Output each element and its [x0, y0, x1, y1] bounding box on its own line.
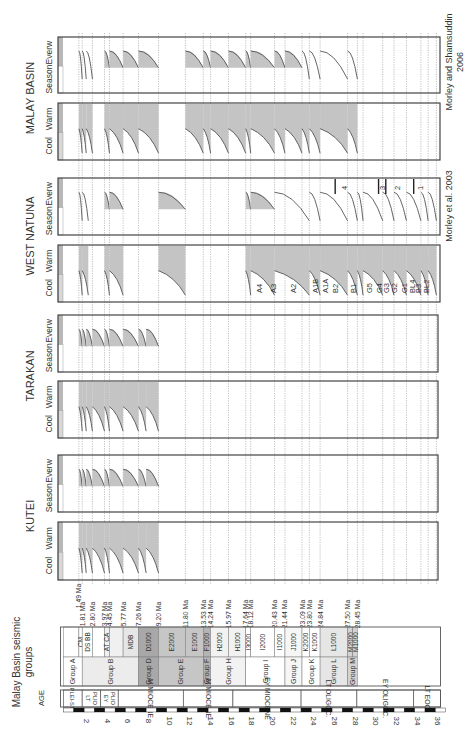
age-label: EY	[103, 695, 109, 703]
scale-bar-segment	[74, 708, 84, 712]
region-title-west-natuna: WEST NATUNA	[24, 196, 36, 276]
label-season: Season	[44, 343, 54, 372]
axis-tick-6: 6	[123, 719, 132, 724]
subunit-label: MDB	[127, 635, 134, 649]
warm-shade	[211, 104, 229, 153]
boundary-age-label: 15.97 Ma	[225, 600, 232, 629]
scale-bar-segment	[404, 708, 414, 712]
scale-bar-segment	[353, 708, 363, 712]
legend-strip-upper	[58, 103, 63, 133]
climate-curve	[383, 192, 394, 221]
legend-strip-lower	[58, 275, 63, 302]
unit-label-a1a: A1A	[321, 279, 330, 293]
everw-shade	[185, 51, 203, 68]
scale-bar-segment	[229, 708, 239, 712]
label-season: Season	[44, 206, 54, 235]
scale-bar-segment	[270, 708, 280, 712]
boundary-age-label: 18.12 Ma	[247, 600, 254, 629]
region-title-malay-basin: MALAY BASIN	[24, 62, 36, 134]
zone-label-3: 3	[378, 186, 387, 190]
subunit-label: E1000	[191, 632, 198, 651]
everw-shade	[109, 469, 123, 486]
scale-bar-segment	[125, 708, 135, 712]
climate-curve	[357, 192, 363, 221]
climate-curve	[302, 51, 309, 79]
group-label: Group M	[349, 658, 357, 685]
unit-label-b2: B2	[331, 284, 340, 293]
climate-curve	[82, 51, 86, 79]
diagram-canvas: SeasonEverwCoolWarmSeasonEverwCoolWarmSe…	[0, 0, 471, 753]
region-title-kutei: KUTEI	[24, 500, 36, 532]
axis-tick-20: 20	[268, 717, 277, 726]
label-warm: Warm	[44, 386, 54, 408]
age-label: M MIOCENE	[205, 679, 212, 719]
climate-curve	[86, 51, 92, 79]
climate-curve	[320, 51, 347, 79]
climate-curve	[363, 192, 383, 221]
everw-shade	[138, 329, 146, 346]
boundary-age-label: 11.80 Ma	[182, 600, 189, 628]
climate-curve	[348, 51, 358, 79]
axis-tick-16: 16	[227, 717, 236, 726]
subunit-label: L1000	[330, 633, 337, 651]
axis-tick-18: 18	[247, 717, 256, 726]
scale-bar-segment	[425, 708, 435, 712]
warm-shade	[159, 246, 186, 295]
everw-shade	[92, 329, 104, 346]
panel-tarakan-season-everw	[58, 315, 438, 372]
everw-shade	[146, 469, 158, 486]
climate-curve	[320, 192, 347, 221]
panel-kutei-cool-warm	[58, 522, 438, 580]
everw-shade	[146, 329, 158, 346]
everw-shade	[138, 51, 158, 68]
scale-bar-segment	[373, 708, 383, 712]
subunit-label: D1000	[145, 632, 152, 652]
scale-bar-segment	[208, 708, 218, 712]
boundary-age-label: 21.44 Ma	[281, 600, 288, 629]
age-label: LT	[85, 695, 91, 702]
scale-bar-segment	[394, 708, 404, 712]
scale-bar-segment	[384, 708, 394, 712]
panel-kutei-season-everw	[58, 455, 438, 512]
subunit-cell	[109, 627, 123, 657]
boundary-age-label: 2.80 Ma	[89, 602, 96, 627]
label-warm: Warm	[44, 527, 54, 549]
scale-bar-segment	[291, 708, 301, 712]
scale-bar-segment	[115, 708, 125, 712]
subunit-label: F1000	[203, 632, 210, 651]
label-cool: Cool	[44, 279, 54, 297]
boundary-age-label: 27.50 Ma	[344, 600, 351, 629]
zone-label-1: 1	[416, 186, 425, 190]
boundary-age-label: 14.24 Ma	[207, 600, 214, 629]
group-label: Group E	[177, 658, 185, 684]
scale-bar-segment	[94, 708, 104, 712]
climate-curve	[82, 192, 88, 221]
scale-bar-segment	[167, 708, 177, 712]
climate-curve	[79, 51, 82, 79]
unit-label-g2: G2	[390, 283, 399, 293]
axis-tick-8: 8	[144, 719, 153, 724]
everw-shade	[138, 469, 146, 486]
unit-label-a1b: A1B	[311, 279, 320, 293]
climate-curve	[275, 192, 310, 221]
label-everw: Everw	[44, 458, 54, 482]
warm-shade	[185, 104, 203, 153]
subunit-label: H2000	[216, 632, 223, 652]
subunit-label: DS BB	[84, 632, 91, 652]
everw-shade	[228, 51, 245, 68]
zone-label-2: 2	[393, 186, 402, 190]
group-label: Group B	[107, 658, 115, 684]
boundary-age-label: 28.45 Ma	[354, 600, 361, 629]
group-label: Group J	[290, 659, 298, 684]
subunit-label: M1000	[352, 632, 359, 652]
axis-tick-14: 14	[206, 717, 215, 726]
zone-label-4: 4	[340, 186, 349, 190]
legend-strip-upper	[58, 522, 63, 552]
everw-shade	[211, 51, 229, 68]
scale-bar-segment	[146, 708, 156, 712]
subunit-label: H1000	[234, 632, 241, 652]
paleoclimate-correlation-figure: SeasonEverwCoolWarmSeasonEverwCoolWarmSe…	[0, 0, 471, 753]
scale-bar-segment	[177, 708, 187, 712]
legend-strip-upper	[58, 37, 63, 66]
age-label: EY MIOCENE	[264, 677, 271, 720]
